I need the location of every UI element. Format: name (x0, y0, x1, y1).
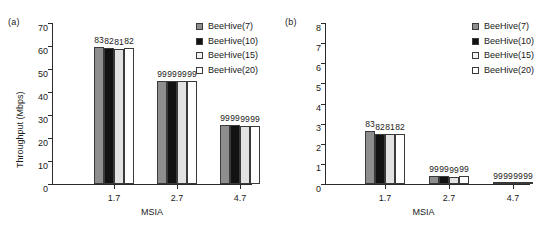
legend-label: BeeHive(7) (484, 22, 529, 31)
bar-value-label: 82 (104, 37, 113, 46)
panel-a-tag: (a) (8, 17, 20, 27)
panel-b-x-axis-line (325, 184, 530, 185)
x-tick-mark (240, 185, 241, 189)
bar-value-label: 99 (449, 166, 458, 175)
x-tick-label: 4.7 (507, 194, 520, 203)
y-tick-label: 6 (316, 63, 325, 72)
bar-value-label: 99 (439, 165, 448, 174)
y-tick-mark (48, 115, 52, 116)
bar-value-label: 83 (94, 36, 103, 45)
bar (104, 48, 114, 184)
legend-label: BeeHive(20) (208, 66, 258, 75)
bar-value-label: 99 (220, 114, 229, 123)
y-tick-mark (321, 164, 325, 165)
legend-item: BeeHive(20) (196, 66, 258, 75)
bar (395, 134, 405, 184)
y-tick-label: 0 (316, 184, 325, 193)
y-tick-label: 0 (43, 184, 52, 193)
y-tick-mark (321, 144, 325, 145)
y-tick-label: 50 (38, 69, 52, 78)
legend-item: BeeHive(7) (472, 22, 534, 31)
bar (250, 126, 260, 184)
bar (177, 81, 187, 184)
y-tick-mark (321, 63, 325, 64)
y-tick-label: 8 (316, 23, 325, 32)
y-tick-mark (321, 23, 325, 24)
bar-value-label: 82 (395, 123, 404, 132)
bar (124, 48, 134, 184)
panel-a-legend: BeeHive(7)BeeHive(10)BeeHive(15)BeeHive(… (196, 22, 258, 80)
y-tick-mark (48, 92, 52, 93)
y-tick-label: 1 (316, 164, 325, 173)
legend-item: BeeHive(20) (472, 66, 534, 75)
panel-a-x-axis-line (52, 184, 252, 185)
legend-item: BeeHive(15) (196, 51, 258, 60)
y-tick-label: 60 (38, 46, 52, 55)
legend-swatch-icon (472, 23, 479, 30)
bar (365, 131, 375, 184)
x-tick-label: 1.7 (379, 194, 392, 203)
x-tick-label: 2.7 (443, 194, 456, 203)
y-tick-label: 5 (316, 83, 325, 92)
bar (157, 81, 167, 185)
legend-swatch-icon (472, 52, 479, 59)
bar-value-label: 82 (375, 123, 384, 132)
y-tick-mark (48, 69, 52, 70)
panel-a-y-axis-line (52, 23, 53, 185)
y-tick-mark (321, 184, 325, 185)
bar (449, 177, 459, 184)
bar (523, 182, 533, 184)
x-tick-mark (177, 185, 178, 189)
bar-value-label: 99 (167, 70, 176, 79)
bar (429, 176, 439, 184)
bar (187, 81, 197, 184)
y-tick-label: 40 (38, 92, 52, 101)
y-tick-label: 4 (316, 104, 325, 113)
bar-value-label: 99 (459, 165, 468, 174)
x-tick-label: 2.7 (171, 194, 184, 203)
panel-a-throughput: (a) Throughput (Mbps) MSIA 0102030405060… (0, 0, 279, 236)
y-tick-mark (48, 46, 52, 47)
legend-swatch-icon (196, 23, 203, 30)
y-tick-mark (321, 43, 325, 44)
bar-value-label: 99 (429, 165, 438, 174)
bar-value-label: 99 (177, 70, 186, 79)
bar-value-label: 99 (240, 115, 249, 124)
x-tick-label: 1.7 (108, 194, 121, 203)
y-tick-label: 7 (316, 43, 325, 52)
legend-swatch-icon (196, 38, 203, 45)
bar (513, 182, 523, 184)
bar-value-label: 99 (493, 172, 502, 181)
bar (240, 126, 250, 184)
x-tick-mark (449, 185, 450, 189)
bar (114, 49, 124, 184)
bar (439, 176, 449, 184)
legend-label: BeeHive(7) (208, 22, 253, 31)
y-tick-mark (48, 161, 52, 162)
bar-value-label: 99 (503, 172, 512, 181)
panel-a-y-axis-label: Throughput (Mbps) (16, 91, 25, 168)
legend-swatch-icon (472, 67, 479, 74)
y-tick-mark (48, 184, 52, 185)
x-tick-mark (114, 185, 115, 189)
bar (167, 81, 177, 185)
legend-label: BeeHive(20) (484, 66, 534, 75)
bar-value-label: 83 (365, 120, 374, 129)
y-tick-mark (321, 104, 325, 105)
legend-item: BeeHive(15) (472, 51, 534, 60)
y-tick-label: 30 (38, 115, 52, 124)
bar (220, 125, 230, 184)
legend-swatch-icon (472, 38, 479, 45)
y-tick-label: 2 (316, 144, 325, 153)
legend-label: BeeHive(10) (484, 37, 534, 46)
y-tick-label: 20 (38, 138, 52, 147)
bar-value-label: 99 (157, 70, 166, 79)
y-tick-mark (321, 124, 325, 125)
x-tick-mark (513, 185, 514, 189)
y-tick-mark (48, 23, 52, 24)
bar-value-label: 81 (114, 38, 123, 47)
y-tick-label: 10 (38, 161, 52, 170)
panel-b-x-axis-label: MSIA (412, 208, 434, 217)
y-tick-label: 3 (316, 124, 325, 133)
panel-b-y-axis-line (325, 23, 326, 185)
